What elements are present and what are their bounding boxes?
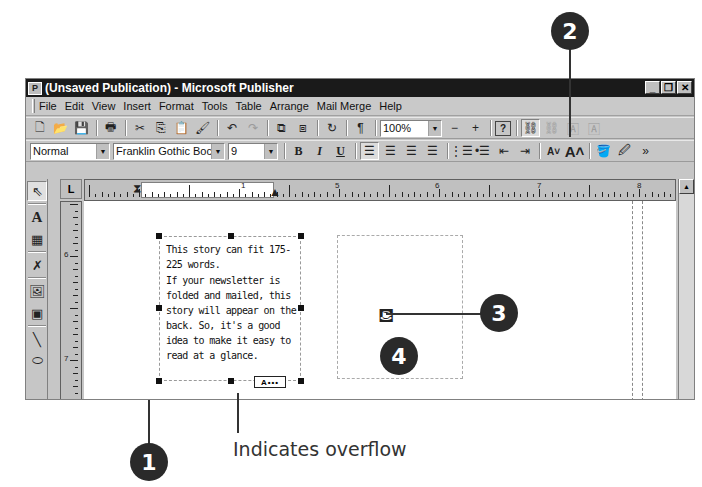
undo-icon[interactable]: ↶ bbox=[222, 119, 241, 137]
break-forward-link-icon[interactable]: ⛓ bbox=[542, 119, 561, 137]
menubar-grip[interactable] bbox=[32, 99, 35, 113]
fill-color-icon[interactable]: 🪣 bbox=[594, 142, 613, 160]
bring-to-front-icon[interactable]: ⧉ bbox=[272, 119, 291, 137]
custom-rotate-icon[interactable]: ↻ bbox=[322, 119, 341, 137]
font-select[interactable]: Franklin Gothic Boc ▼ bbox=[113, 143, 225, 160]
paste-icon[interactable]: 📋 bbox=[172, 119, 191, 137]
align-left-icon[interactable]: ☰ bbox=[360, 142, 379, 160]
story-text-box[interactable]: This story can fit 175-225 words. If you… bbox=[159, 236, 301, 381]
selection-handle[interactable] bbox=[298, 305, 304, 311]
menu-format[interactable]: Format bbox=[159, 100, 194, 112]
text-overflow-indicator[interactable]: A••• bbox=[254, 376, 286, 388]
underline-button[interactable]: U bbox=[331, 142, 350, 160]
show-special-characters-icon[interactable]: ¶ bbox=[351, 119, 370, 137]
save-icon[interactable]: 💾 bbox=[72, 119, 91, 137]
toolbar-options-button[interactable]: » bbox=[636, 142, 655, 160]
redo-icon[interactable]: ↷ bbox=[243, 119, 262, 137]
ruler-tick bbox=[639, 189, 640, 197]
menu-table[interactable]: Table bbox=[235, 100, 261, 112]
selection-handle[interactable] bbox=[228, 233, 234, 239]
menu-edit[interactable]: Edit bbox=[65, 100, 84, 112]
ruler-tick bbox=[370, 194, 371, 197]
ruler-origin-corner[interactable]: L bbox=[60, 179, 82, 199]
next-text-box-icon[interactable]: 🄰 bbox=[584, 119, 603, 137]
zoom-select[interactable]: 100% ▼ bbox=[380, 120, 442, 137]
story-text[interactable]: This story can fit 175-225 words. If you… bbox=[166, 242, 298, 364]
table-tool-icon[interactable]: ▦ bbox=[27, 229, 47, 249]
selection-handle[interactable] bbox=[298, 378, 304, 384]
chevron-down-icon[interactable]: ▼ bbox=[428, 121, 441, 136]
ruler-tick bbox=[75, 289, 78, 290]
format-painter-icon[interactable]: 🖌 bbox=[193, 119, 212, 137]
increase-indent-icon[interactable]: ⇥ bbox=[515, 142, 534, 160]
clip-organizer-tool-icon[interactable]: ▣ bbox=[27, 303, 47, 323]
chevron-down-icon[interactable]: ▼ bbox=[211, 144, 224, 159]
zoom-out-button[interactable]: − bbox=[445, 119, 464, 137]
italic-button[interactable]: I bbox=[310, 142, 329, 160]
bold-button[interactable]: B bbox=[289, 142, 308, 160]
selection-handle[interactable] bbox=[156, 233, 162, 239]
numbering-icon[interactable]: ⋮☰ bbox=[452, 142, 471, 160]
wordart-tool-icon[interactable]: ✗ bbox=[27, 255, 47, 275]
pointer-tool-icon[interactable]: ⇖ bbox=[27, 181, 47, 201]
ruler-tick bbox=[170, 194, 171, 197]
create-text-box-link-icon[interactable]: ⛓ bbox=[521, 119, 540, 137]
ruler-tick bbox=[127, 192, 128, 197]
selection-handle[interactable] bbox=[156, 378, 162, 384]
vertical-scrollbar[interactable]: ▲ bbox=[678, 179, 694, 400]
chevron-down-icon[interactable]: ▼ bbox=[96, 144, 109, 159]
close-button[interactable]: ✕ bbox=[677, 81, 692, 94]
cut-icon[interactable]: ✂ bbox=[130, 119, 149, 137]
open-icon[interactable]: 📂 bbox=[51, 119, 70, 137]
minimize-button[interactable]: _ bbox=[645, 81, 660, 94]
ruler-tick bbox=[70, 308, 78, 309]
selection-handle[interactable] bbox=[298, 233, 304, 239]
align-center-icon[interactable]: ☰ bbox=[381, 142, 400, 160]
ruler-tick bbox=[289, 185, 290, 197]
justify-icon[interactable]: ☰ bbox=[423, 142, 442, 160]
zoom-in-button[interactable]: + bbox=[466, 119, 485, 137]
ruler-tick bbox=[75, 263, 78, 264]
ruler-tick bbox=[420, 194, 421, 197]
new-icon[interactable]: 🗋 bbox=[30, 119, 49, 137]
ruler-tick bbox=[533, 194, 534, 197]
menu-view[interactable]: View bbox=[92, 100, 116, 112]
picture-frame-tool-icon[interactable]: 🖼 bbox=[27, 281, 47, 301]
page-canvas[interactable]: This story can fit 175-225 words. If you… bbox=[84, 201, 676, 400]
menu-insert[interactable]: Insert bbox=[123, 100, 151, 112]
menu-help[interactable]: Help bbox=[379, 100, 402, 112]
text-box-tool-icon[interactable]: A bbox=[27, 207, 47, 227]
chevron-down-icon[interactable]: ▼ bbox=[264, 144, 277, 159]
decrease-indent-icon[interactable]: ⇤ bbox=[494, 142, 513, 160]
ruler-tick bbox=[75, 315, 78, 316]
menu-mail-merge[interactable]: Mail Merge bbox=[317, 100, 371, 112]
restore-button[interactable]: ❐ bbox=[661, 81, 676, 94]
menu-arrange[interactable]: Arrange bbox=[270, 100, 309, 112]
menu-tools[interactable]: Tools bbox=[202, 100, 228, 112]
selection-handle[interactable] bbox=[228, 378, 234, 384]
copy-icon[interactable]: ⎘ bbox=[151, 119, 170, 137]
print-icon[interactable]: 🖶 bbox=[101, 119, 120, 137]
send-to-back-icon[interactable]: ⧈ bbox=[293, 119, 312, 137]
selection-handle[interactable] bbox=[156, 305, 162, 311]
align-right-icon[interactable]: ☰ bbox=[402, 142, 421, 160]
style-value: Normal bbox=[33, 145, 68, 157]
publisher-app-icon[interactable]: P bbox=[28, 82, 42, 95]
oval-tool-icon[interactable]: ⬭ bbox=[27, 351, 47, 371]
horizontal-ruler[interactable]: ⧗ ▲ 1 5 6 7 8 bbox=[84, 179, 676, 201]
decrease-font-size-icon[interactable]: A˅ bbox=[544, 142, 563, 160]
scroll-up-arrow-icon[interactable]: ▲ bbox=[679, 179, 694, 194]
ruler-tick bbox=[164, 192, 165, 197]
line-color-icon[interactable]: 🖉 bbox=[615, 142, 634, 160]
vertical-ruler[interactable]: 6 7 bbox=[60, 201, 82, 400]
line-tool-icon[interactable]: ╲ bbox=[27, 329, 47, 349]
font-size-select[interactable]: 9 ▼ bbox=[228, 143, 278, 160]
style-select[interactable]: Normal ▼ bbox=[30, 143, 110, 160]
menu-file[interactable]: File bbox=[39, 100, 57, 112]
bullets-icon[interactable]: •☰ bbox=[473, 142, 492, 160]
help-button[interactable]: ? bbox=[495, 121, 511, 136]
increase-font-size-icon[interactable]: A˄ bbox=[565, 142, 584, 160]
previous-text-box-icon[interactable]: 🄰 bbox=[563, 119, 582, 137]
ruler-tick bbox=[414, 192, 415, 197]
ruler-tick bbox=[89, 185, 90, 197]
